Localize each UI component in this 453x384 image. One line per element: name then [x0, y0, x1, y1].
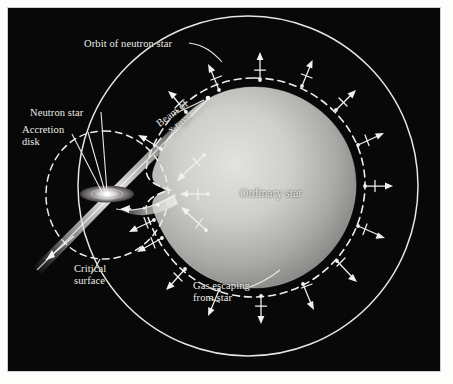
figure-root: Orbit of neutron star Neutron star Accre… — [0, 0, 453, 384]
gas-stream-clump — [156, 203, 159, 206]
gas-stream-clump — [143, 207, 146, 210]
diagram-plate: Orbit of neutron star Neutron star Accre… — [8, 8, 440, 371]
diagram-canvas — [8, 8, 440, 371]
xray-beam-upper-tip-dot — [206, 96, 211, 101]
neutron-star — [104, 191, 109, 196]
